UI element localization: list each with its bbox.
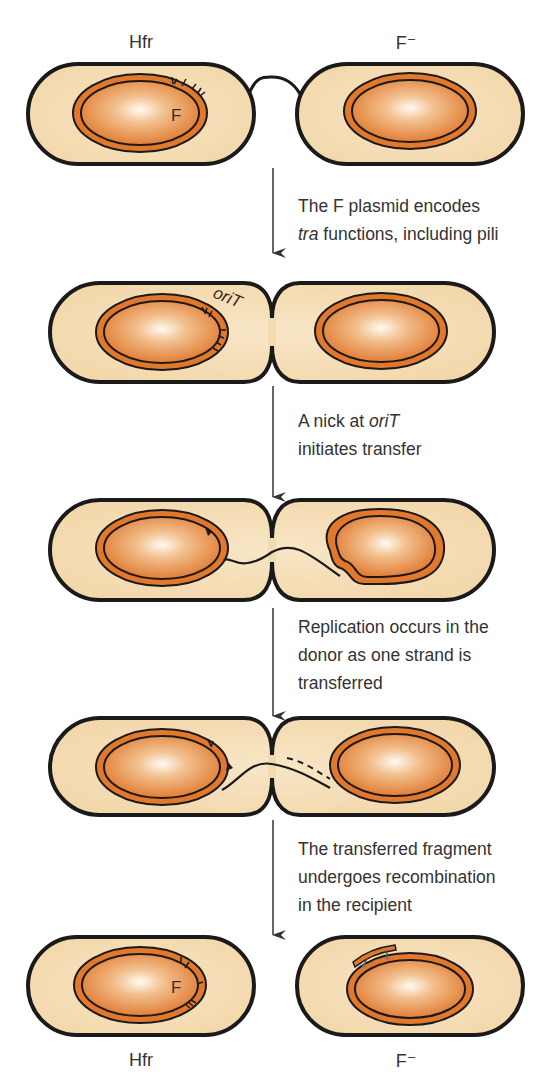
f-minus-cell-final: [297, 937, 523, 1035]
step-1-line-1: The F plasmid encodes: [298, 192, 498, 220]
step-3-line-2: donor as one strand is: [298, 641, 489, 669]
hfr-cell-final: F: [28, 937, 254, 1035]
conjugation-diagram: F oriT: [0, 0, 549, 1091]
step-caption-4: The transferred fragment undergoes recom…: [298, 835, 496, 919]
row-3-transfer-initiation: [50, 500, 494, 600]
row-4-replication-transfer: [50, 718, 494, 815]
pilus: [249, 77, 300, 94]
step-3-line-3: transferred: [298, 669, 489, 697]
f-minus-cell: [297, 64, 523, 164]
strain-label-fminus-bottom: F⁻: [396, 1050, 417, 1072]
strain-label-fminus-top: F⁻: [396, 32, 417, 54]
step-1-line-2: functions, including pili: [318, 224, 498, 244]
step-2-italic-orit: oriT: [369, 411, 399, 431]
hfr-cell: F: [28, 64, 254, 164]
step-2-prefix: A nick at: [298, 411, 369, 431]
strain-label-hfr-top: Hfr: [129, 32, 153, 53]
step-4-line-2: undergoes recombination: [298, 863, 496, 891]
step-4-line-3: in the recipient: [298, 891, 496, 919]
step-4-line-1: The transferred fragment: [298, 835, 496, 863]
step-caption-3: Replication occurs in the donor as one s…: [298, 613, 489, 697]
row-5-result: F: [28, 937, 523, 1035]
step-2-line-2: initiates transfer: [298, 435, 422, 463]
step-1-italic-tra: tra: [298, 224, 318, 244]
plasmid-f-label: F: [171, 106, 181, 125]
row-1-mating-pair: F: [28, 64, 523, 164]
row-2-conjugating-pair: oriT: [50, 283, 494, 382]
plasmid-f-label-final: F: [171, 978, 181, 997]
step-caption-2: A nick at oriT initiates transfer: [298, 407, 422, 463]
strain-label-hfr-bottom: Hfr: [129, 1050, 153, 1071]
step-3-line-1: Replication occurs in the: [298, 613, 489, 641]
step-caption-1: The F plasmid encodes tra functions, inc…: [298, 192, 498, 248]
